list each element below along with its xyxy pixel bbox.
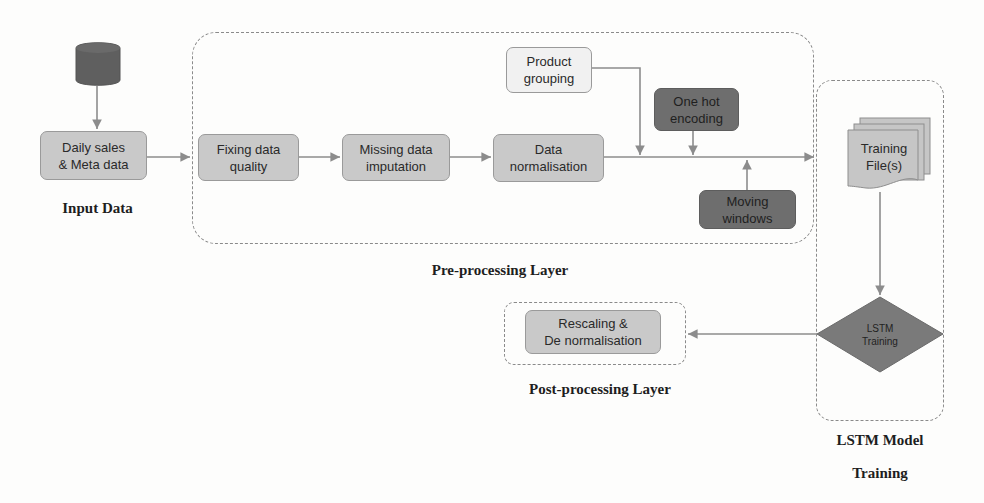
lstm-training-label: LSTM Training [850, 322, 910, 348]
input-data-label: Input Data [40, 200, 155, 217]
one-hot-encoding-node: One hot encoding [654, 88, 739, 131]
fixing-data-quality-node: Fixing data quality [198, 134, 299, 181]
postprocessing-layer-label: Post-processing Layer [510, 381, 690, 398]
training-files-label: Training File(s) [848, 140, 920, 174]
moving-windows-node: Moving windows [699, 190, 796, 229]
lstm-model-label-line1: LSTM Model [820, 432, 940, 449]
data-normalisation-node: Data normalisation [493, 134, 604, 182]
daily-sales-meta-data-node: Daily sales & Meta data [40, 131, 147, 180]
preprocessing-layer-label: Pre-processing Layer [380, 262, 620, 279]
lstm-model-label-line2: Training [820, 465, 940, 482]
database-icon [74, 40, 122, 88]
missing-data-imputation-node: Missing data imputation [342, 134, 450, 181]
product-grouping-node: Product grouping [506, 47, 592, 93]
connector-arrows [0, 0, 984, 503]
rescaling-denormalisation-node: Rescaling & De normalisation [525, 310, 661, 354]
